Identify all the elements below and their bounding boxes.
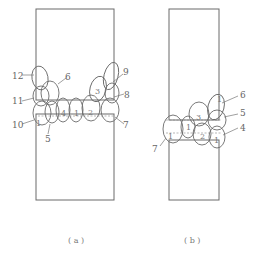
label-4: 4 bbox=[61, 109, 66, 118]
figure-b: 6 5 4 7 3 2 1 1 1 1 ( b ) bbox=[152, 9, 246, 245]
label-2: 2 bbox=[88, 108, 93, 117]
label-12: 12 bbox=[12, 71, 23, 81]
label-inner-1: 1 bbox=[36, 119, 41, 128]
label-b-5: 5 bbox=[240, 108, 246, 118]
label-b-1b: 1 bbox=[186, 123, 191, 132]
label-b-1d: 1 bbox=[214, 136, 219, 145]
label-b-2: 2 bbox=[200, 132, 205, 141]
figure-a: 12 6 11 10 5 9 8 7 3 4 1 2 1 ( a ) bbox=[12, 9, 130, 245]
label-6: 6 bbox=[65, 72, 71, 82]
label-5: 5 bbox=[45, 134, 51, 144]
label-b-1c: 1 bbox=[217, 95, 222, 104]
label-11: 11 bbox=[12, 96, 23, 106]
label-1: 1 bbox=[74, 109, 79, 118]
weld-bead-diagram: 12 6 11 10 5 9 8 7 3 4 1 2 1 ( a ) 6 5 4… bbox=[0, 0, 255, 258]
plate-a-lower bbox=[36, 114, 114, 200]
caption-a: ( a ) bbox=[68, 236, 84, 245]
label-b-1a: 1 bbox=[168, 132, 173, 141]
label-b-3: 3 bbox=[196, 113, 201, 122]
plate-a-upper bbox=[36, 9, 114, 100]
bead-12 bbox=[30, 65, 50, 91]
bead-9 bbox=[101, 61, 122, 92]
label-b-7: 7 bbox=[152, 144, 158, 154]
label-9: 9 bbox=[123, 67, 129, 77]
label-b-4: 4 bbox=[240, 123, 246, 133]
label-3: 3 bbox=[95, 87, 100, 96]
caption-b: ( b ) bbox=[184, 236, 200, 245]
label-10: 10 bbox=[12, 120, 24, 130]
label-7: 7 bbox=[123, 120, 129, 130]
plate-b-lower bbox=[169, 140, 219, 200]
label-8: 8 bbox=[124, 90, 130, 100]
label-b-6: 6 bbox=[240, 90, 246, 100]
